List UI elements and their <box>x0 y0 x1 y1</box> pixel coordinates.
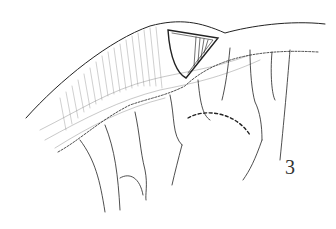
dome-outline <box>26 22 325 118</box>
dashed-arc <box>188 113 250 135</box>
margin-line <box>58 51 318 152</box>
figure-label: 3 <box>285 156 295 179</box>
illustration <box>0 0 336 229</box>
